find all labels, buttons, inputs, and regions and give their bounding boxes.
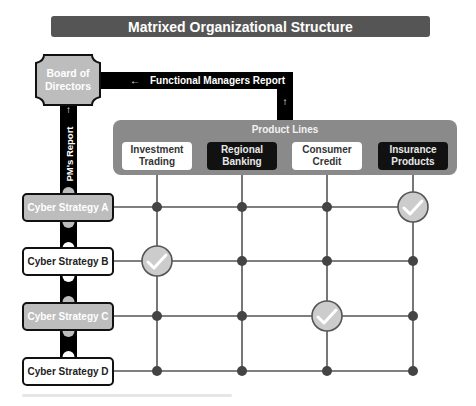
node-dot: [237, 256, 247, 266]
node-dot: [408, 366, 418, 376]
product-lines-panel: Product Lines InvestmentTrading Regional…: [113, 120, 457, 175]
functional-managers-report-text: Functional Managers Report: [150, 75, 285, 86]
node-dot: [237, 366, 247, 376]
node-dot: [152, 366, 162, 376]
node-dot: [408, 256, 418, 266]
strategy-c: Cyber Strategy C: [22, 302, 114, 331]
product-regional-banking: RegionalBanking: [207, 142, 277, 170]
board-of-directors: Board of Directors: [36, 55, 100, 105]
arrow-up-icon: ↑: [277, 96, 293, 107]
strategy-b: Cyber Strategy B: [22, 247, 114, 276]
footer-caption: [22, 394, 232, 397]
product-lines-title: Product Lines: [113, 124, 457, 135]
functional-managers-report-label: ← Functional Managers Report: [130, 72, 285, 89]
node-dot: [152, 311, 162, 321]
board-label-line2: Directors: [45, 80, 91, 93]
arrow-up-icon: ↑: [60, 104, 77, 115]
node-dot: [322, 366, 332, 376]
check-icon: [398, 192, 428, 222]
pm-report-text: PM's Report: [63, 126, 74, 181]
node-dot: [322, 202, 332, 212]
product-investment-trading: InvestmentTrading: [122, 142, 192, 170]
strategy-d: Cyber Strategy D: [22, 357, 114, 386]
pm-report-label: PM's Report: [60, 118, 77, 190]
check-icon: [312, 301, 342, 331]
board-label-line1: Board of: [45, 67, 91, 80]
check-icon: [142, 246, 172, 276]
arrow-left-icon: ←: [130, 75, 140, 86]
node-dot: [322, 256, 332, 266]
product-insurance-products: InsuranceProducts: [378, 142, 448, 170]
node-dot: [237, 311, 247, 321]
node-dot: [408, 311, 418, 321]
product-consumer-credit: ConsumerCredit: [292, 142, 362, 170]
strategy-a: Cyber Strategy A: [22, 193, 114, 222]
node-dot: [152, 202, 162, 212]
node-dot: [237, 202, 247, 212]
